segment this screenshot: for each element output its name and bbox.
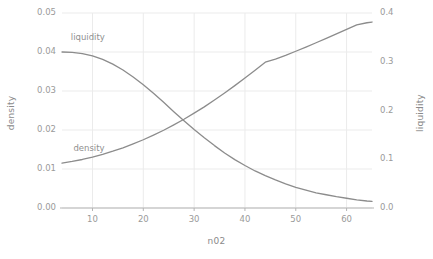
- y-axis-right-tick-label: 0.0: [380, 202, 412, 212]
- x-axis-tick-label: 50: [276, 214, 316, 224]
- x-axis-tick-label: 60: [327, 214, 367, 224]
- y-axis-left-title: density: [6, 83, 16, 143]
- y-axis-right-tick-label: 0.1: [380, 153, 412, 163]
- y-axis-left-tick-label: 0.04: [24, 46, 56, 56]
- x-axis-tick-label: 30: [174, 214, 214, 224]
- y-axis-left-tick-label: 0.01: [24, 163, 56, 173]
- y-axis-right-title: liquidity: [415, 83, 425, 143]
- y-axis-left-tick-label: 0.05: [24, 7, 56, 17]
- series-line-liquidity: [62, 52, 372, 201]
- y-axis-right-tick-label: 0.3: [380, 56, 412, 66]
- chart-container: density liquidity n02 0.000.010.020.030.…: [0, 0, 433, 259]
- chart-plot-area: [0, 0, 433, 259]
- x-axis-tick-label: 10: [72, 214, 112, 224]
- x-axis-tick-label: 40: [225, 214, 265, 224]
- series-annotation-density: density: [73, 143, 104, 153]
- x-axis-tick-label: 20: [123, 214, 163, 224]
- series-line-density: [62, 22, 372, 163]
- y-axis-right-tick-label: 0.4: [380, 7, 412, 17]
- y-axis-left-tick-label: 0.03: [24, 85, 56, 95]
- y-axis-left-tick-label: 0.00: [24, 202, 56, 212]
- series-annotation-liquidity: liquidity: [71, 32, 105, 42]
- y-axis-right-tick-label: 0.2: [380, 105, 412, 115]
- x-axis-title: n02: [0, 236, 433, 246]
- y-axis-left-tick-label: 0.02: [24, 124, 56, 134]
